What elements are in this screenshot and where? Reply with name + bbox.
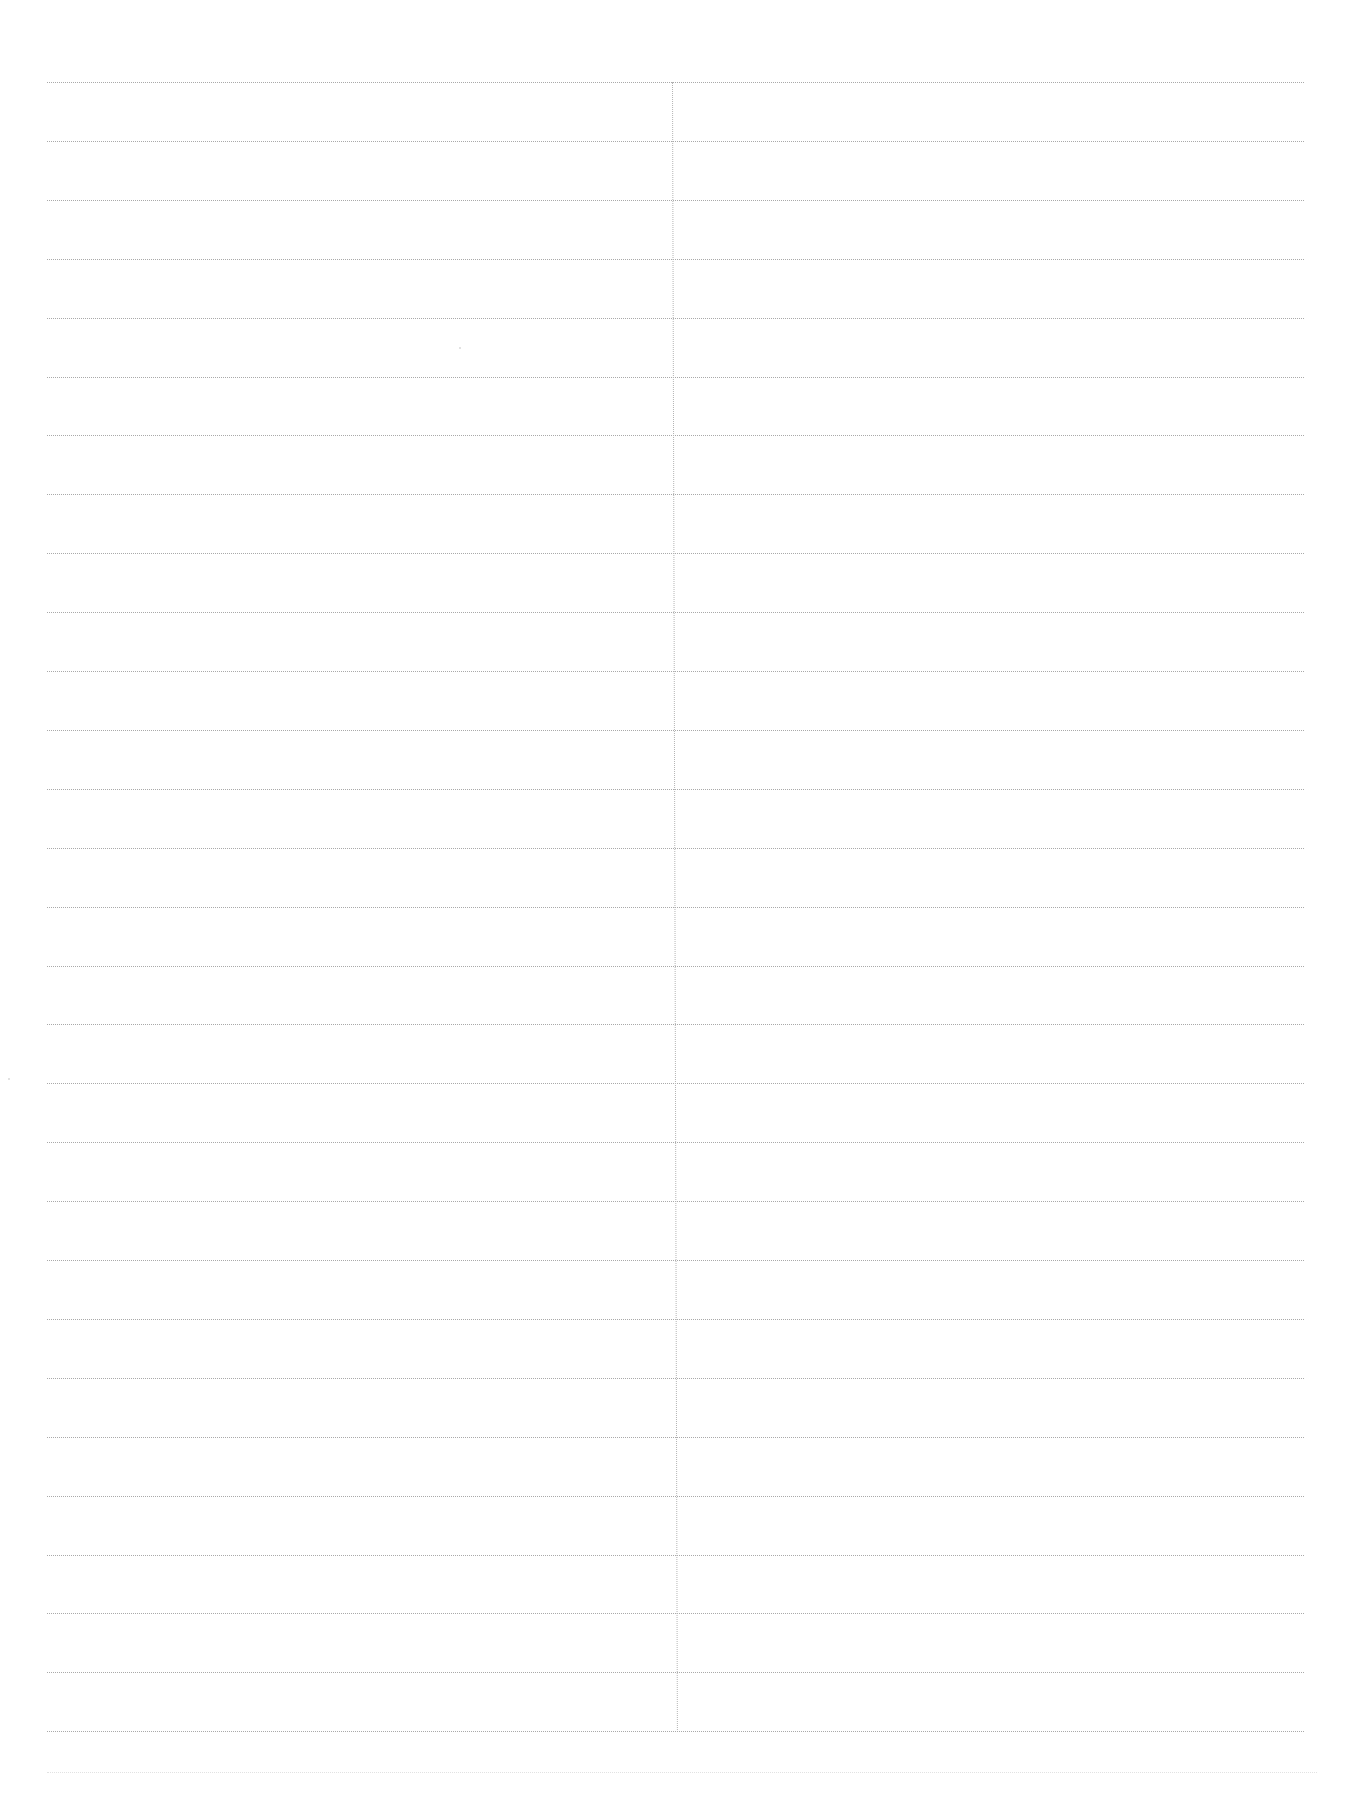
ruled-line [47, 141, 1304, 142]
faint-bottom-line [47, 1772, 1317, 1773]
right-column [673, 82, 1304, 1730]
ruled-line [47, 435, 1304, 436]
left-column [47, 82, 672, 1730]
ruled-line [47, 82, 1304, 83]
paper-speck [459, 347, 461, 349]
ruled-line [47, 1731, 1304, 1732]
ruled-line [47, 377, 1304, 378]
ruled-line [47, 789, 1304, 790]
ruled-line [47, 730, 1304, 731]
ruled-sheet [0, 0, 1345, 1802]
ruled-line [47, 671, 1304, 672]
ruled-line [47, 494, 1304, 495]
ruled-line [47, 848, 1304, 849]
paper-speck [8, 1078, 10, 1080]
ruled-line [47, 318, 1304, 319]
ruled-line [47, 907, 1304, 908]
ruled-line [47, 200, 1304, 201]
ruled-line [47, 612, 1304, 613]
ruled-line [47, 1613, 1304, 1614]
ruled-line [47, 1672, 1304, 1673]
ruled-line [47, 259, 1304, 260]
ruled-line [47, 553, 1304, 554]
